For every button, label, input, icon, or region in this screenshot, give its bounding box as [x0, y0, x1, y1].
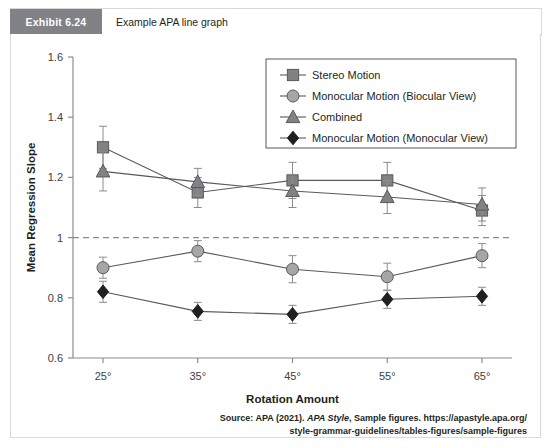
x-axis-title: Rotation Amount	[246, 393, 339, 405]
data-point-square	[97, 142, 108, 153]
chart-container: 0.60.811.21.41.625°35°45°55°65°Rotation …	[10, 34, 541, 438]
data-point-circle	[381, 271, 393, 283]
y-axis-tick-label: 1	[57, 232, 63, 244]
exhibit-number-badge: Exhibit 6.24	[10, 9, 102, 35]
source-text-a: Source: APA (2021).	[220, 413, 307, 423]
data-point-circle	[97, 262, 109, 274]
x-axis-tick-label: 25°	[95, 370, 112, 382]
source-title-italic: APA Style	[307, 413, 349, 423]
legend-label: Combined	[312, 111, 362, 123]
legend-label: Stereo Motion	[312, 69, 380, 81]
source-line-2: style-grammar-guidelines/tables-figures/…	[10, 425, 527, 438]
data-point-circle	[287, 263, 299, 275]
x-axis-tick-label: 65°	[474, 370, 491, 382]
data-point-diamond	[476, 289, 487, 303]
y-axis-tick-label: 1.2	[48, 171, 63, 183]
data-point-square	[287, 69, 298, 80]
data-point-circle	[192, 245, 204, 257]
y-axis-tick-label: 0.6	[48, 352, 63, 364]
y-axis-title: Mean Regression Slope	[25, 143, 37, 273]
legend-label: Monocular Motion (Monocular View)	[312, 132, 488, 144]
source-line-1: Source: APA (2021). APA Style, Sample fi…	[10, 412, 527, 425]
series-4	[97, 281, 487, 323]
data-point-circle	[476, 250, 488, 262]
series-2	[97, 241, 488, 291]
x-axis-tick-label: 35°	[189, 370, 206, 382]
chart-plot-area: 0.60.811.21.41.625°35°45°55°65°Rotation …	[11, 34, 542, 438]
y-axis-tick-label: 0.8	[48, 292, 63, 304]
data-point-diamond	[287, 308, 298, 322]
source-text-b: , Sample figures. https://apastyle.apa.o…	[349, 413, 527, 423]
source-citation: Source: APA (2021). APA Style, Sample fi…	[10, 412, 541, 438]
y-axis-tick-label: 1.4	[48, 111, 63, 123]
chart-legend: Stereo MotionMonocular Motion (Biocular …	[266, 59, 516, 148]
data-point-circle	[287, 90, 299, 102]
y-axis-tick-label: 1.6	[48, 51, 63, 63]
exhibit-figure: Exhibit 6.24 Example APA line graph 0.60…	[0, 0, 551, 448]
data-point-triangle	[96, 164, 110, 177]
exhibit-header: Exhibit 6.24 Example APA line graph	[10, 8, 542, 36]
legend-item-3: Combined	[280, 110, 362, 123]
legend-item-4: Monocular Motion (Monocular View)	[280, 131, 488, 145]
data-point-diamond	[192, 305, 203, 319]
line-chart-svg: 0.60.811.21.41.625°35°45°55°65°Rotation …	[11, 34, 542, 438]
legend-label: Monocular Motion (Biocular View)	[312, 90, 476, 102]
legend-item-1: Stereo Motion	[280, 69, 380, 81]
data-point-diamond	[97, 285, 108, 299]
x-axis-tick-label: 55°	[379, 370, 396, 382]
data-point-diamond	[382, 293, 393, 307]
exhibit-caption: Example APA line graph	[102, 9, 228, 35]
x-axis-tick-label: 45°	[284, 370, 301, 382]
